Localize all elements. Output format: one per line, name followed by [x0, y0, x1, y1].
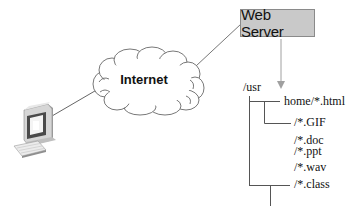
tree-entry: /*.class: [294, 178, 330, 190]
tree-entry: /*.GIF: [294, 116, 326, 128]
web-server-node: Web Server: [240, 9, 315, 37]
server-filesystem-arrow: [277, 39, 285, 89]
diagram-canvas: Web Server Internet /usr home/*.html /*.…: [0, 0, 357, 212]
web-server-label: Web Server: [241, 6, 314, 40]
desktop-computer-icon: [14, 102, 56, 158]
filesystem-root: /usr: [243, 81, 261, 93]
filesystem-tree-lines: [250, 96, 292, 206]
tree-entry: home/*.html: [284, 95, 345, 107]
client-internet-link: [52, 88, 100, 116]
internet-label: Internet: [112, 72, 176, 87]
internet-server-link: [196, 24, 241, 66]
tree-entry: /*.wav: [294, 161, 326, 173]
tree-entry: /*.ppt: [294, 145, 322, 157]
